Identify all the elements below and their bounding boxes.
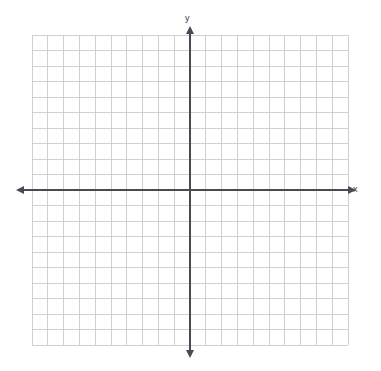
y-axis-arrow-up-icon <box>186 26 194 34</box>
y-axis-label: y <box>185 14 190 23</box>
axis-lines <box>16 26 356 358</box>
x-axis-arrow-left-icon <box>16 186 24 194</box>
grid-canvas <box>0 0 381 371</box>
coordinate-grid-figure: y x <box>0 0 381 371</box>
y-axis-arrow-down-icon <box>186 350 194 358</box>
x-axis-label: x <box>353 185 358 194</box>
